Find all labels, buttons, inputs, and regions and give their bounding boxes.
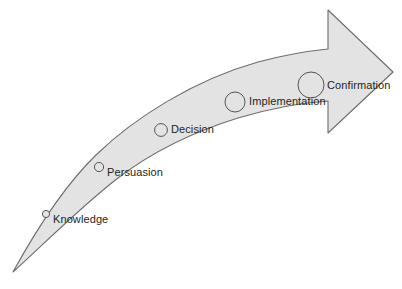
- innovation-decision-diagram: Knowledge Persuasion Decision Implementa…: [0, 0, 402, 289]
- curved-arrow-shape: [13, 10, 393, 272]
- stage-marker-implementation: [225, 92, 245, 112]
- stage-label-persuasion: Persuasion: [107, 167, 163, 178]
- stage-label-implementation: Implementation: [249, 96, 326, 107]
- arrow-diagram-canvas: [0, 0, 402, 289]
- stage-label-decision: Decision: [171, 124, 214, 135]
- stage-label-knowledge: Knowledge: [53, 214, 108, 225]
- stage-marker-knowledge: [42, 210, 49, 217]
- stage-marker-decision: [155, 124, 168, 137]
- stage-marker-persuasion: [94, 162, 103, 171]
- stage-label-confirmation: Confirmation: [327, 80, 391, 91]
